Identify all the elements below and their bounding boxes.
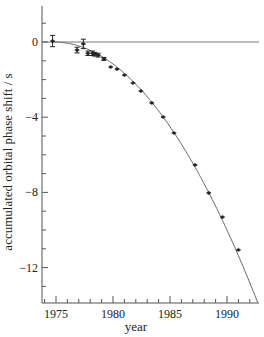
x-tick-label: 1990: [215, 307, 239, 321]
data-point: [161, 115, 166, 118]
phase-shift-chart: 0−4−8−12 1975198019851990 year accumulat…: [0, 0, 264, 337]
gr-prediction-curve: [54, 42, 258, 303]
y-tick-label: −8: [25, 185, 38, 199]
x-tick-label: 1980: [101, 307, 125, 321]
y-axis: 0−4−8−12: [19, 6, 48, 303]
x-axis-label: year: [125, 319, 148, 334]
data-point: [50, 35, 55, 46]
x-tick-label: 1985: [158, 307, 182, 321]
data-point: [101, 57, 106, 60]
x-tick-label: 1975: [44, 307, 68, 321]
data-point: [131, 81, 136, 84]
y-tick-label: 0: [32, 35, 38, 49]
data-point: [206, 191, 211, 194]
data-point: [108, 65, 113, 68]
plot-area: [42, 35, 259, 302]
x-axis: 1975198019851990: [42, 296, 259, 321]
y-axis-label: accumulated orbital phase shift / s: [0, 73, 15, 250]
y-tick-label: −4: [25, 110, 38, 124]
data-point: [122, 73, 127, 76]
data-point: [75, 47, 80, 53]
data-point: [139, 89, 144, 92]
y-tick-label: −12: [19, 261, 38, 275]
data-point: [172, 131, 177, 134]
